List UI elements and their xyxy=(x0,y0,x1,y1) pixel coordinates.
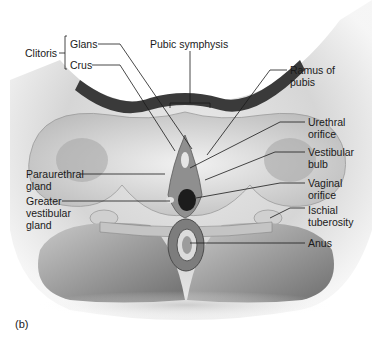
label-vestibular-bulb: Vestibular bulb xyxy=(308,146,354,170)
anatomy-figure: Clitoris Glans Crus Pubic symphysis Ramu… xyxy=(0,0,372,337)
label-glans: Glans xyxy=(70,38,97,50)
panel-label: (b) xyxy=(15,318,28,330)
label-greater-vestibular-gland: Greater vestibular gland xyxy=(26,195,71,231)
label-crus: Crus xyxy=(70,59,92,71)
label-vaginal-orifice: Vaginal orifice xyxy=(308,177,342,201)
label-pubic-symphysis: Pubic symphysis xyxy=(150,38,228,50)
label-clitoris: Clitoris xyxy=(25,47,57,59)
label-anus: Anus xyxy=(308,237,332,249)
label-ischial-tuberosity: Ischial tuberosity xyxy=(308,204,354,228)
label-urethral-orifice: Urethral orifice xyxy=(308,116,345,140)
label-paraurethral-gland: Paraurethral gland xyxy=(26,168,84,192)
label-ramus-of-pubis: Ramus of pubis xyxy=(290,64,335,88)
